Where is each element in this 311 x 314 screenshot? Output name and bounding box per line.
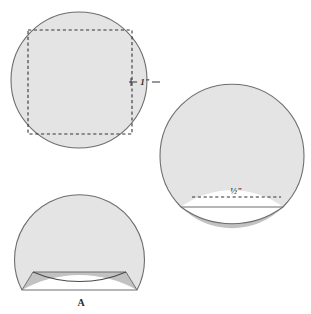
figure-circle-with-inscribed-square: 1" [11, 12, 160, 148]
point-label-a: A [77, 297, 85, 308]
figure-truncated-circle-with-chord-wedges: A [14, 195, 144, 308]
figure-sheet: 1" ½" [0, 0, 311, 314]
dimension-label-half-inch: ½" [230, 186, 242, 196]
shaded-segment-region [181, 207, 283, 228]
diagram-canvas: 1" ½" [0, 0, 311, 314]
circle-body [11, 12, 147, 148]
dimension-label-1inch: 1" [140, 77, 150, 87]
segment-boundary-arc [181, 207, 283, 224]
figure-truncated-circle-with-segment: ½" [160, 84, 304, 228]
